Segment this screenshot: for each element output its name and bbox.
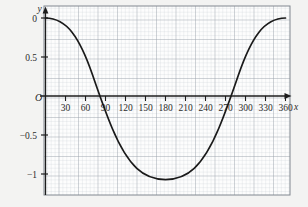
grid-lines — [44, 6, 291, 196]
x-tick-label-240: 240 — [198, 103, 213, 113]
y-tick-label-0: 0 — [32, 14, 37, 24]
x-tick-label-180: 180 — [158, 103, 173, 113]
x-tick-label-60: 60 — [81, 103, 91, 113]
graph-figure: 0 0.5 −0.5 −1 30 60 90 120 150 180 210 2… — [0, 0, 308, 207]
graph-paper — [44, 6, 291, 196]
x-tick-label-300: 300 — [238, 103, 253, 113]
x-tick-label-150: 150 — [138, 103, 153, 113]
x-tick-label-120: 120 — [118, 103, 133, 113]
x-tick-label-30: 30 — [61, 103, 71, 113]
origin-label: O — [35, 92, 42, 103]
x-axis-label: x — [293, 102, 299, 112]
y-tick-label-neg-0-5: −0.5 — [20, 131, 37, 141]
y-axis-label: y — [37, 4, 43, 14]
x-tick-label-210: 210 — [178, 103, 193, 113]
x-tick-label-360: 360 — [278, 103, 293, 113]
y-tick-label-0-5: 0.5 — [25, 53, 37, 63]
x-tick-label-330: 330 — [258, 103, 273, 113]
y-tick-label-neg-1: −1 — [27, 170, 37, 180]
